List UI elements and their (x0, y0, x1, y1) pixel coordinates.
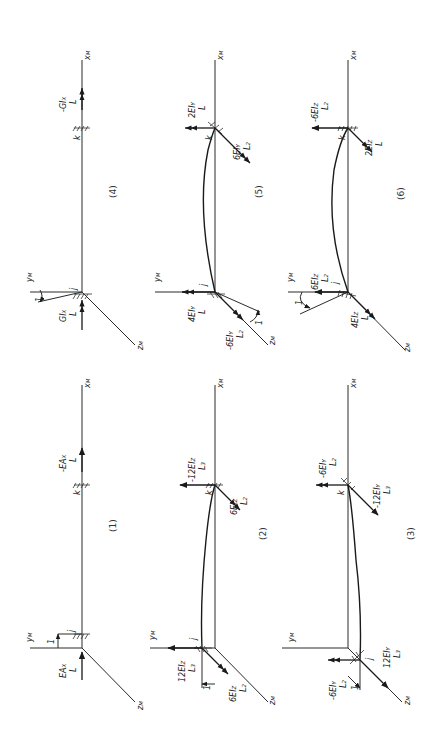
j-moment-denominator: L (361, 316, 370, 320)
j-force-denominator: L (69, 668, 78, 672)
y-axis-label: yM (286, 272, 295, 283)
k-moment-label: -6EIY (319, 459, 328, 478)
j-label: j (365, 657, 374, 661)
moment-arrow-j (202, 648, 228, 674)
k-moment-denominator: L2 (240, 497, 249, 505)
j-moment-label: 4EIZ (351, 311, 360, 328)
j-label: j (189, 637, 198, 641)
displacement-value: 1 (47, 639, 56, 644)
j-force-denominator: L2 (321, 274, 330, 282)
z-axis-label: zM (403, 696, 412, 706)
k-force-denominator: L (69, 100, 78, 104)
j-force-denominator: L (69, 312, 78, 316)
z-axis-label: zM (136, 701, 145, 711)
j-label: j (331, 281, 340, 285)
z-axis-line (82, 292, 135, 345)
y-axis-label: yM (148, 630, 157, 641)
z-axis-label: zM (403, 343, 412, 353)
k-label: k (205, 490, 214, 495)
rotation-value: 1 (35, 297, 44, 302)
j-force-label: -6EIY (226, 331, 235, 350)
rotation-value: 1 (255, 320, 264, 325)
k-label: k (73, 135, 82, 140)
x-axis-label: xM (349, 50, 358, 61)
z-axis-label: zM (136, 341, 145, 351)
j-force-label: 12EIZ (178, 660, 187, 682)
z-axis-line (215, 648, 268, 702)
k-force-label: -6EIZ (311, 103, 320, 122)
y-axis-label: yM (25, 272, 34, 283)
z-axis-label: zM (268, 336, 277, 346)
k-moment-denominator: L (375, 142, 384, 146)
panel-caption-6: (6) (396, 187, 406, 200)
j-force-denominator: L3 (393, 650, 402, 658)
j-moment-label: -6EIY (329, 681, 338, 700)
z-axis-line (82, 648, 135, 702)
j-force-label: EAX (59, 663, 68, 678)
k-moment-label: 2EIZ (365, 139, 374, 156)
k-label: k (338, 135, 347, 140)
rotated-y-line (38, 292, 82, 302)
panel-caption-1: (1) (108, 519, 118, 532)
k-force-denominator: L3 (198, 462, 207, 470)
y-axis-label: yM (25, 632, 34, 643)
j-moment-label: 6EIZ (229, 685, 238, 702)
k-moment-denominator: L2 (329, 458, 338, 466)
k-moment-label: 2EIY (188, 101, 197, 118)
k-label: k (337, 490, 346, 495)
j-label: j (69, 287, 78, 291)
panel-5: xM k j yM zM 1 2EIY L 6EIY L2 4EIY L -6E… (153, 50, 277, 350)
x-axis-label: xM (83, 50, 92, 61)
deflected-shape (348, 485, 361, 660)
j-force-label: GIX (59, 309, 68, 322)
k-force-denominator: L3 (383, 486, 392, 494)
x-axis-label: xM (349, 378, 358, 389)
rotation-value: 1 (295, 300, 304, 305)
x-axis-label: xM (83, 378, 92, 389)
panel-caption-4: (4) (108, 185, 118, 198)
k-force-label: -GIX (59, 97, 68, 112)
panel-caption-2: (2) (258, 527, 268, 540)
y-axis-label: yM (287, 632, 296, 643)
k-moment-label: 6EIZ (230, 498, 239, 515)
force-arrow-j (215, 292, 243, 320)
deflected-shape (202, 485, 216, 648)
panel-caption-3: (3) (406, 527, 416, 540)
j-moment-denominator: L2 (239, 684, 248, 692)
displacement-value: 1 (203, 685, 212, 690)
k-moment-denominator: L (198, 106, 207, 110)
j-force-denominator: L2 (236, 330, 245, 338)
y-axis-label: yM (153, 272, 162, 283)
k-force-label: -12EIY (373, 484, 382, 509)
j-force-label: 6EIZ (311, 273, 320, 290)
k-force-denominator: L (69, 458, 78, 462)
j-moment-denominator: L (198, 310, 207, 314)
j-label: j (199, 283, 208, 287)
panel-6: xM k j yM zM 1 -6EIZ L2 2EIZ L 6EIZ L2 4… (286, 50, 412, 353)
deflected-shape (332, 128, 348, 292)
j-force-label: 12EIY (383, 646, 392, 668)
panel-1: xM k j yM zM 1 -EAX L EAX L (1) (25, 378, 145, 711)
support-hatch-j (73, 294, 92, 299)
panel-4: xM k j yM zM 1 -GIX L GIX L (4) (25, 50, 145, 351)
k-force-label: -12EIZ (188, 458, 197, 483)
panel-2: xM k j yM zM 1 -12EIZ L3 6EIZ L2 12EIZ L… (148, 378, 277, 706)
rotated-y-line (300, 292, 348, 314)
k-force-label: 6EIY (233, 143, 242, 160)
k-label: k (205, 135, 214, 140)
stiffness-diagram-figure: xM k j yM zM 1 -GIX L GIX L (4) (0, 0, 442, 735)
k-force-denominator: L2 (321, 102, 330, 110)
k-force-denominator: L2 (243, 142, 252, 150)
z-axis-label: zM (268, 696, 277, 706)
k-label: k (73, 490, 82, 495)
displacement-value: 1 (351, 685, 360, 690)
rotated-z-line (215, 292, 260, 312)
j-moment-denominator: L2 (339, 680, 348, 688)
j-label: j (67, 629, 76, 633)
k-force-label: -EAX (59, 455, 68, 472)
panel-3: xM k j yM zM 1 -6EIY L2 -12EIY L3 -6EIY … (282, 378, 416, 706)
j-force-denominator: L3 (188, 664, 197, 672)
x-axis-label: xM (216, 50, 225, 61)
deflected-shape (203, 128, 215, 292)
x-axis-label: xM (216, 378, 225, 389)
